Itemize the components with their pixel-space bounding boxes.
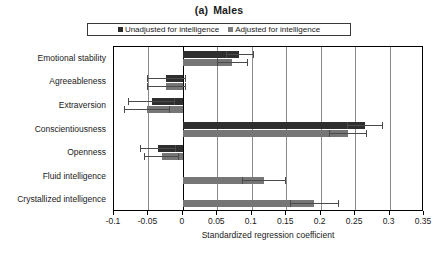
error-bar-cap-high (247, 59, 248, 66)
error-bar-line (147, 86, 186, 87)
chart-title-panel-id: (a) (195, 4, 208, 16)
error-bar (290, 200, 339, 207)
error-bar-cap-low (226, 51, 227, 58)
x-axis-tick-label: 0 (180, 216, 185, 227)
x-axis-tick (389, 211, 390, 215)
error-bar-cap-high (338, 200, 339, 207)
error-bar-cap-high (382, 122, 383, 129)
error-bar (147, 83, 186, 90)
error-bar (329, 130, 368, 137)
plot-area (113, 46, 423, 211)
error-bar (140, 145, 176, 152)
chart-figure: (a)Males Unadjusted for intelligence Adj… (0, 0, 438, 257)
error-bar-line (290, 203, 339, 204)
error-bar-cap-high (169, 106, 170, 113)
x-axis-tick (216, 211, 217, 215)
x-axis-tick-label: 0.2 (314, 216, 326, 227)
x-axis-tick (113, 211, 114, 215)
y-axis-label: Extraversion (59, 100, 106, 110)
error-bar-cap-low (217, 59, 218, 66)
error-bar-cap-high (185, 75, 186, 82)
x-axis-tick (147, 211, 148, 215)
error-bar-line (242, 180, 286, 181)
legend-item-adjusted: Adjusted for intelligence (228, 25, 320, 34)
x-axis-tick-label: 0.15 (277, 216, 294, 227)
x-axis-tick-label: 0.05 (208, 216, 225, 227)
x-axis-tick-label: -0.05 (138, 216, 157, 227)
error-bar (347, 122, 384, 129)
x-axis-tick-label: -0.1 (106, 216, 121, 227)
error-bar-cap-low (290, 200, 291, 207)
error-bar (128, 98, 174, 105)
y-axis-label: Emotional stability (37, 53, 106, 63)
error-bar-line (226, 54, 254, 55)
x-axis-tick-label: 0.35 (415, 216, 432, 227)
x-axis-tick (251, 211, 252, 215)
error-bar (242, 177, 286, 184)
y-axis-label: Fluid intelligence (43, 171, 106, 181)
error-bar-cap-high (253, 51, 254, 58)
x-axis-tick-label: 0.1 (245, 216, 257, 227)
x-axis-tick (320, 211, 321, 215)
y-axis-label: Agreeableness (49, 76, 106, 86)
plot-inner (114, 47, 422, 210)
x-axis-tick (354, 211, 355, 215)
legend-swatch-icon-unadjusted (118, 27, 123, 32)
error-bar (124, 106, 170, 113)
y-axis-label: Openness (67, 147, 106, 157)
error-bar-line (217, 62, 248, 63)
error-bar-cap-low (242, 177, 243, 184)
chart-title: (a)Males (0, 4, 438, 16)
error-bar-cap-high (175, 145, 176, 152)
x-axis-tick (423, 211, 424, 215)
error-bar-cap-high (285, 177, 286, 184)
error-bar-cap-high (185, 83, 186, 90)
x-axis-tick (285, 211, 286, 215)
error-bar-cap-low (128, 98, 129, 105)
legend-swatch-icon-adjusted (228, 27, 233, 32)
error-bar-line (128, 101, 174, 102)
error-bar-cap-low (144, 153, 145, 160)
error-bar-line (147, 78, 186, 79)
error-bar-cap-low (329, 130, 330, 137)
chart-title-text: Males (213, 4, 243, 16)
error-bar-line (140, 148, 176, 149)
error-bar-cap-low (347, 122, 348, 129)
y-axis-label: Crystallized intelligence (17, 194, 106, 204)
error-bar (147, 75, 186, 82)
error-bar-cap-low (147, 83, 148, 90)
legend-label-unadjusted: Unadjusted for intelligence (125, 25, 219, 34)
error-bar-cap-low (140, 145, 141, 152)
error-bar (217, 59, 248, 66)
x-axis-tick (182, 211, 183, 215)
gridline (148, 47, 149, 210)
error-bar (144, 153, 180, 160)
y-axis-label: Conscientiousness (35, 124, 106, 134)
error-bar-line (144, 156, 180, 157)
bar (183, 122, 365, 129)
legend-item-unadjusted: Unadjusted for intelligence (118, 25, 219, 34)
error-bar-line (124, 109, 170, 110)
bar (183, 130, 348, 137)
x-axis-tick-label: 0.25 (346, 216, 363, 227)
x-axis-tick-label: 0.3 (383, 216, 395, 227)
error-bar-cap-low (147, 75, 148, 82)
x-axis-tick-labels: -0.1-0.0500.050.10.150.20.250.30.35 (0, 216, 438, 228)
error-bar-line (329, 133, 368, 134)
legend-label-adjusted: Adjusted for intelligence (235, 25, 320, 34)
error-bar-cap-high (178, 153, 179, 160)
y-axis-labels: Emotional stabilityAgreeablenessExtraver… (0, 46, 110, 211)
error-bar-cap-high (366, 130, 367, 137)
error-bar (226, 51, 254, 58)
x-axis-title: Standardized regression coefficient (113, 230, 423, 240)
error-bar-cap-high (174, 98, 175, 105)
gridline (390, 47, 391, 210)
chart-legend: Unadjusted for intelligence Adjusted for… (87, 23, 351, 36)
error-bar-line (347, 125, 384, 126)
error-bar-cap-low (124, 106, 125, 113)
